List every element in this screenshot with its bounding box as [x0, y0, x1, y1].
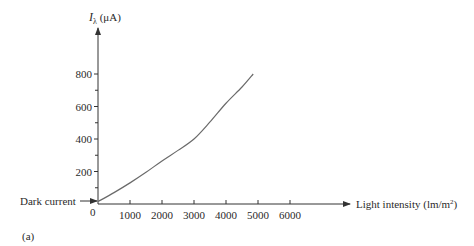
- x-tick-label: 1000: [119, 209, 142, 221]
- x-tick-label: 2000: [151, 209, 174, 221]
- y-axis-label: Iλ (μA): [88, 10, 121, 26]
- origin-label: 0: [90, 206, 96, 218]
- chart-canvas: Iλ (μA) 200400600800 1000200030004000500…: [0, 0, 474, 246]
- y-tick-label: 400: [76, 133, 93, 145]
- x-tick-label: 4000: [215, 209, 238, 221]
- x-axis-ticks: 100020003000400050006000: [119, 200, 302, 221]
- x-tick-label: 5000: [247, 209, 270, 221]
- dark-current-label: Dark current: [20, 195, 76, 207]
- photocurrent-curve: [98, 74, 253, 202]
- y-axis-ticks: 200400600800: [76, 68, 99, 188]
- y-tick-label: 200: [76, 166, 93, 178]
- y-tick-label: 800: [76, 68, 93, 80]
- x-tick-label: 6000: [279, 209, 302, 221]
- x-tick-label: 3000: [183, 209, 206, 221]
- x-axis-label: Light intensity (lm/m2): [356, 198, 458, 211]
- y-tick-label: 600: [76, 101, 93, 113]
- panel-label: (a): [22, 230, 35, 243]
